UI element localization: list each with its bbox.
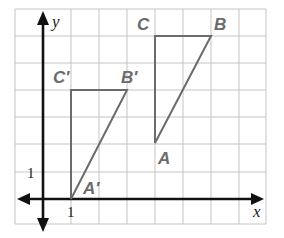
y-tick-1: 1: [27, 165, 35, 181]
grid-lines: [15, 9, 266, 224]
vertex-label-b-prime: B′: [121, 68, 138, 87]
coordinate-grid: y x 1 1 A B C A′ B′ C′: [0, 0, 284, 238]
x-axis: [17, 193, 264, 205]
vertex-label-a: A: [157, 149, 170, 168]
y-axis-label: y: [50, 12, 60, 31]
vertex-label-c: C: [137, 15, 150, 34]
x-axis-label: x: [252, 202, 261, 221]
vertex-label-c-prime: C′: [53, 68, 70, 87]
x-tick-1: 1: [67, 204, 75, 220]
vertex-label-a-prime: A′: [82, 179, 100, 198]
vertex-label-b: B: [214, 15, 226, 34]
